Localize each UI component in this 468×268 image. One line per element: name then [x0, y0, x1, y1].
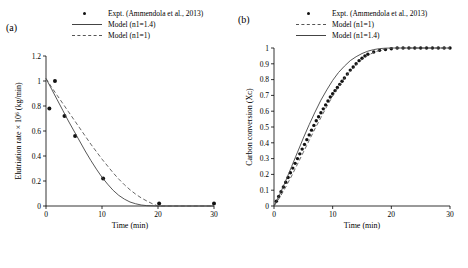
svg-text:1.2: 1.2 [32, 52, 42, 61]
svg-text:0.5: 0.5 [260, 123, 270, 132]
legend-label-model-n1: Model (n1=1) [332, 19, 374, 30]
svg-text:0.2: 0.2 [260, 170, 270, 179]
svg-text:30: 30 [446, 210, 454, 219]
legend-item-model-n1: Model (n1=1) [294, 19, 427, 30]
legend-item-expt: Expt. (Ammendola et al., 2013) [294, 8, 427, 19]
svg-text:0.6: 0.6 [32, 127, 42, 136]
svg-text:0.4: 0.4 [260, 139, 270, 148]
svg-text:Carbon conversion (Xᴄ): Carbon conversion (Xᴄ) [245, 88, 254, 166]
svg-text:20: 20 [388, 210, 396, 219]
figure-container: (a) Expt. (Ammendola et al., 2013) Model… [0, 0, 468, 268]
legend-item-model-n14: Model (n1=1.4) [294, 30, 427, 41]
panel-b-legend: Expt. (Ammendola et al., 2013) Model (n1… [294, 8, 427, 41]
panel-a: (a) Expt. (Ammendola et al., 2013) Model… [0, 0, 234, 268]
panel-a-label: (a) [6, 22, 17, 33]
legend-label-model-n14: Model (n1=1.4) [332, 30, 380, 41]
scatter-marker-icon [70, 8, 104, 19]
panel-b-label: (b) [238, 14, 250, 25]
legend-label-expt: Expt. (Ammendola et al., 2013) [108, 8, 203, 19]
scatter-marker-icon [294, 8, 328, 19]
dashed-line-icon [70, 30, 104, 41]
svg-text:0: 0 [37, 202, 41, 211]
svg-text:0.3: 0.3 [260, 154, 270, 163]
svg-text:0.9: 0.9 [260, 60, 270, 69]
legend-item-expt: Expt. (Ammendola et al., 2013) [70, 8, 203, 19]
svg-text:10: 10 [98, 210, 106, 219]
svg-text:0: 0 [44, 210, 48, 219]
legend-label-model-n1: Model (n1=1) [108, 30, 150, 41]
dashed-line-icon [294, 19, 328, 30]
solid-line-icon [70, 19, 104, 30]
svg-text:Time (min): Time (min) [344, 221, 381, 230]
svg-text:0.4: 0.4 [32, 152, 42, 161]
svg-text:10: 10 [329, 210, 337, 219]
svg-text:0.6: 0.6 [260, 107, 270, 116]
svg-text:1: 1 [265, 44, 269, 53]
panel-b: (b) Expt. (Ammendola et al., 2013) Model… [234, 0, 468, 268]
svg-text:30: 30 [210, 210, 218, 219]
legend-label-expt: Expt. (Ammendola et al., 2013) [332, 8, 427, 19]
solid-line-icon [294, 30, 328, 41]
svg-text:20: 20 [154, 210, 162, 219]
svg-text:0.8: 0.8 [32, 102, 42, 111]
panel-a-legend: Expt. (Ammendola et al., 2013) Model (n1… [70, 8, 203, 41]
svg-text:0: 0 [272, 210, 276, 219]
svg-text:0.2: 0.2 [32, 177, 42, 186]
svg-text:0.1: 0.1 [260, 186, 270, 195]
svg-text:0.8: 0.8 [260, 75, 270, 84]
svg-text:Time (min): Time (min) [112, 221, 149, 230]
legend-label-model-n14: Model (n1=1.4) [108, 19, 156, 30]
svg-text:Elutriation rate × 10⁶ (kg/min: Elutriation rate × 10⁶ (kg/min) [14, 82, 23, 180]
legend-item-model-n1: Model (n1=1) [70, 30, 203, 41]
svg-text:1: 1 [37, 77, 41, 86]
svg-text:0: 0 [265, 202, 269, 211]
svg-text:0.7: 0.7 [260, 91, 270, 100]
legend-item-model-n14: Model (n1=1.4) [70, 19, 203, 30]
